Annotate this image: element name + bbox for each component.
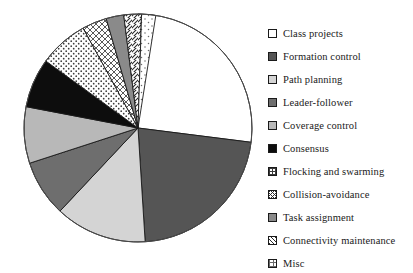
swatch-sparsedots-icon [268, 259, 277, 268]
legend-item-label: Consensus [283, 137, 329, 160]
legend-item-label: Path planning [283, 68, 342, 91]
legend-item[interactable]: Flocking and swarming [268, 160, 413, 183]
legend-item[interactable]: Misc [268, 252, 413, 273]
legend-item-label: Class projects [283, 22, 343, 45]
swatch-diagonal-icon [268, 236, 277, 245]
pie-plot-area [0, 0, 262, 273]
legend-item-label: Connectivity maintenance [283, 229, 395, 252]
legend-item[interactable]: Task assignment [268, 206, 413, 229]
swatch-dots-icon [268, 167, 277, 176]
swatch-crosshatch-icon [268, 190, 277, 199]
chart-legend: Class projectsFormation controlPath plan… [268, 22, 413, 273]
legend-item-label: Misc [283, 252, 304, 273]
legend-item[interactable]: Collision-avoidance [268, 183, 413, 206]
swatch-mid-gray-icon [268, 98, 277, 107]
swatch-light-gray-icon [268, 75, 277, 84]
legend-item-label: Flocking and swarming [283, 160, 384, 183]
legend-item[interactable]: Connectivity maintenance [268, 229, 413, 252]
legend-item[interactable]: Consensus [268, 137, 413, 160]
legend-item[interactable]: Coverage control [268, 114, 413, 137]
legend-item-label: Leader-follower [283, 91, 353, 114]
legend-item[interactable]: Formation control [268, 45, 413, 68]
legend-item-label: Collision-avoidance [283, 183, 369, 206]
legend-item[interactable]: Class projects [268, 22, 413, 45]
legend-item-label: Task assignment [283, 206, 354, 229]
pie-slices-group [24, 14, 252, 242]
swatch-dark-gray-icon [268, 52, 277, 61]
legend-item[interactable]: Path planning [268, 68, 413, 91]
pie-slice[interactable] [138, 14, 252, 142]
legend-item-label: Formation control [283, 45, 361, 68]
legend-item-label: Coverage control [283, 114, 357, 137]
swatch-white-icon [268, 29, 277, 38]
pie-chart-svg [0, 0, 262, 273]
swatch-black-icon [268, 144, 277, 153]
swatch-gray-icon [268, 213, 277, 222]
pie-slice[interactable] [138, 128, 251, 242]
legend-item[interactable]: Leader-follower [268, 91, 413, 114]
swatch-pale-gray-icon [268, 121, 277, 130]
pie-chart-figure: Class projectsFormation controlPath plan… [0, 0, 413, 273]
